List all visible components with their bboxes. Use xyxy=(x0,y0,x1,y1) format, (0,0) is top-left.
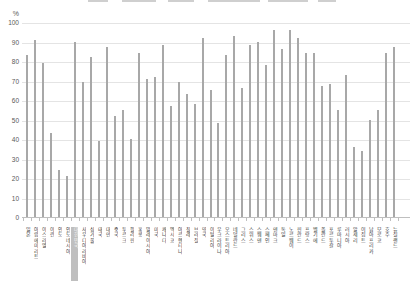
x-category-label: 덴마크 xyxy=(271,227,278,281)
gridline xyxy=(22,62,410,63)
bar xyxy=(321,86,323,217)
x-tick xyxy=(39,218,40,221)
x-tick xyxy=(111,218,112,221)
x-category-label: 칠레 xyxy=(183,227,190,281)
x-tick xyxy=(366,218,367,221)
gridline xyxy=(22,199,410,200)
bar xyxy=(369,120,371,218)
x-tick xyxy=(382,218,383,221)
x-category-label: 러시아 xyxy=(343,227,350,281)
bar xyxy=(361,151,363,217)
bar xyxy=(225,55,227,217)
plot-area xyxy=(22,23,410,218)
x-category-label: 아랍에미리트 xyxy=(31,227,38,281)
x-category-label: 뉴질랜드 xyxy=(391,227,398,281)
bar xyxy=(162,45,164,217)
y-tick-label: 100 xyxy=(0,19,19,27)
bar xyxy=(106,47,108,217)
x-category-label: 폴란드 xyxy=(319,227,326,281)
bar xyxy=(241,88,243,217)
x-tick xyxy=(71,218,72,221)
bar xyxy=(66,176,68,217)
x-category-label: 포르투갈 xyxy=(327,227,334,281)
x-tick xyxy=(374,218,375,221)
bar xyxy=(385,53,387,217)
x-tick xyxy=(135,218,136,221)
bar xyxy=(202,38,204,217)
x-tick xyxy=(87,218,88,221)
x-category-label: 태국 xyxy=(95,227,102,281)
x-category-label: 스위스 xyxy=(247,227,254,281)
bar xyxy=(257,42,259,218)
bar xyxy=(34,40,36,217)
y-tick-label: 10 xyxy=(0,195,19,203)
x-tick xyxy=(103,218,104,221)
x-tick xyxy=(47,218,48,221)
x-category-label: 인도네시아 xyxy=(63,227,70,281)
x-category-label: 미국 xyxy=(151,227,158,281)
bar xyxy=(337,110,339,217)
x-category-label: 노르웨이 xyxy=(287,227,294,281)
x-tick xyxy=(358,218,359,221)
x-tick xyxy=(270,218,271,221)
x-tick xyxy=(151,218,152,221)
x-category-label: 브라질 xyxy=(191,227,198,281)
x-category-label: 싱가풀 xyxy=(87,227,94,281)
x-tick xyxy=(294,218,295,221)
bar xyxy=(345,75,347,217)
x-tick xyxy=(302,218,303,221)
x-tick xyxy=(310,218,311,221)
y-tick-label: 20 xyxy=(0,175,19,183)
x-category-label: 이집트 xyxy=(359,227,366,281)
x-category-label: 프랑스 xyxy=(303,227,310,281)
x-tick xyxy=(175,218,176,221)
x-category-label: 핀란드 xyxy=(295,227,302,281)
bar xyxy=(58,170,60,217)
gridline xyxy=(22,121,410,122)
x-tick xyxy=(207,218,208,221)
x-category-label: 모로코 xyxy=(375,227,382,281)
y-tick-label: 60 xyxy=(0,97,19,105)
x-category-label: 알제리 xyxy=(351,227,358,281)
x-tick xyxy=(127,218,128,221)
bar xyxy=(249,45,251,217)
x-tick xyxy=(278,218,279,221)
x-category-label: 투르크 xyxy=(119,227,126,281)
x-category-label: 필리핀 xyxy=(127,227,134,281)
x-category-label: 우크라이나 xyxy=(215,227,222,281)
x-category-label: 사우디아라비아 xyxy=(79,227,86,281)
bar xyxy=(42,63,44,217)
x-category-label: 스페인 xyxy=(263,227,270,281)
x-tick xyxy=(262,218,263,221)
x-category-label: 일본 xyxy=(24,227,31,281)
x-tick xyxy=(342,218,343,221)
x-tick xyxy=(254,218,255,221)
bar xyxy=(50,133,52,217)
x-tick xyxy=(350,218,351,221)
y-tick-label: 0 xyxy=(0,214,19,222)
bar xyxy=(82,82,84,217)
bar xyxy=(122,110,124,217)
gridline xyxy=(22,82,410,83)
x-tick xyxy=(199,218,200,221)
y-tick-label: 50 xyxy=(0,117,19,125)
y-tick-label: 90 xyxy=(0,39,19,47)
x-category-label: 아르헨티나 xyxy=(175,227,182,281)
bar xyxy=(353,147,355,217)
x-tick xyxy=(222,218,223,221)
bar xyxy=(265,65,267,217)
x-category-label: 캐나다 xyxy=(159,227,166,281)
x-tick xyxy=(55,218,56,221)
x-category-label: 중국 xyxy=(111,227,118,281)
x-category-label: 스웨덴 xyxy=(255,227,262,281)
gridline xyxy=(22,179,410,180)
x-tick xyxy=(246,218,247,221)
bar xyxy=(146,79,148,217)
y-tick-label: 30 xyxy=(0,156,19,164)
bar xyxy=(98,141,100,217)
bar xyxy=(297,38,299,217)
x-tick xyxy=(31,218,32,221)
y-tick-label: 40 xyxy=(0,136,19,144)
x-category-label: 영국 xyxy=(199,227,206,281)
bar-chart: % 0102030405060708090100 일본아랍에미리트이스라엘이란인… xyxy=(0,0,415,281)
